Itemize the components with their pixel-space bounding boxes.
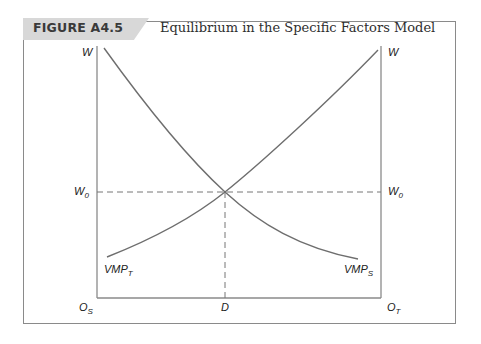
origin-s-label: OS	[79, 301, 93, 316]
vmp-t-curve	[107, 50, 378, 257]
vmp-s-label: VMPS	[344, 263, 373, 278]
d-label: D	[221, 301, 229, 313]
w0-right-label: W0	[388, 185, 403, 200]
w-right-label: W	[388, 46, 398, 58]
chart-plot	[0, 0, 481, 344]
vmp-s-curve	[104, 48, 358, 259]
w-left-label: W	[82, 46, 92, 58]
w0-left-label: W0	[74, 185, 89, 200]
origin-t-label: OT	[387, 301, 400, 316]
vmp-t-label: VMPT	[104, 263, 133, 278]
